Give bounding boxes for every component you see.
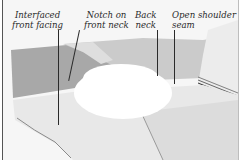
- callout-open-shoulder-seam: Open shoulder seam: [172, 10, 236, 30]
- callout-back-neck: Back neck: [135, 10, 156, 30]
- figure-frame: Interfaced front facing Notch on front n…: [0, 0, 241, 160]
- leader-line-interfaced-front-facing: [58, 30, 59, 125]
- neck-opening-top: [83, 64, 159, 92]
- callout-interfaced-front-facing: Interfaced front facing: [12, 10, 63, 30]
- leader-line-open-shoulder-seam: [174, 30, 175, 84]
- callout-notch-front-neck: Notch on front neck: [84, 10, 129, 30]
- leader-line-back-neck: [157, 30, 158, 76]
